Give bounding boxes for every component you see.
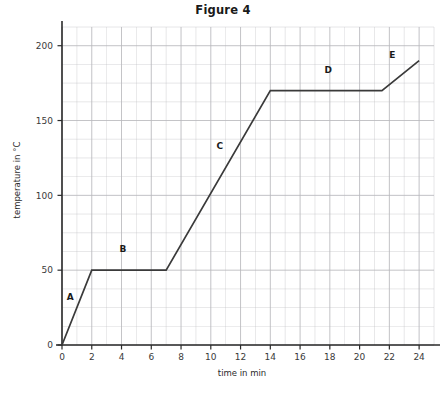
svg-text:6: 6 bbox=[148, 352, 154, 362]
minor-gridlines bbox=[62, 27, 434, 345]
segment-labels: ABCDE bbox=[67, 50, 396, 302]
svg-text:12: 12 bbox=[235, 352, 246, 362]
axis-lines bbox=[56, 21, 440, 345]
svg-text:8: 8 bbox=[178, 352, 184, 362]
segment-label-b: B bbox=[120, 244, 127, 254]
svg-text:20: 20 bbox=[354, 352, 366, 362]
segment-label-c: C bbox=[216, 141, 223, 151]
svg-text:100: 100 bbox=[36, 191, 53, 201]
segment-label-a: A bbox=[67, 292, 74, 302]
svg-text:10: 10 bbox=[205, 352, 217, 362]
svg-text:150: 150 bbox=[36, 116, 53, 126]
svg-text:18: 18 bbox=[324, 352, 336, 362]
svg-text:0: 0 bbox=[47, 340, 53, 350]
svg-text:16: 16 bbox=[294, 352, 306, 362]
svg-text:22: 22 bbox=[384, 352, 395, 362]
svg-text:200: 200 bbox=[36, 41, 53, 51]
svg-text:4: 4 bbox=[119, 352, 125, 362]
svg-text:14: 14 bbox=[265, 352, 277, 362]
svg-text:2: 2 bbox=[89, 352, 95, 362]
x-axis-tick-labels: 024681012141618202224 bbox=[59, 352, 425, 362]
svg-text:50: 50 bbox=[42, 265, 54, 275]
svg-text:0: 0 bbox=[59, 352, 65, 362]
segment-label-e: E bbox=[389, 50, 395, 60]
segment-label-d: D bbox=[325, 65, 332, 75]
y-axis-tick-labels: 050100150200 bbox=[36, 41, 53, 350]
line-chart-plot: 024681012141618202224 050100150200 ABCDE bbox=[0, 0, 446, 394]
major-gridlines bbox=[62, 27, 434, 345]
figure-container: Figure 4 temperature in °C time in min 0… bbox=[0, 0, 446, 394]
svg-text:24: 24 bbox=[413, 352, 425, 362]
